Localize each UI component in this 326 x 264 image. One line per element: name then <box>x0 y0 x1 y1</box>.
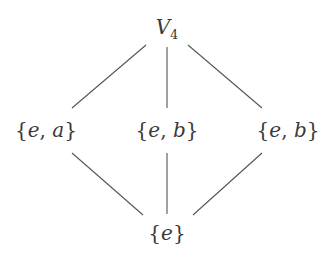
node-trivial-subgroup: {e} <box>148 221 185 245</box>
identity-element: e <box>148 118 160 142</box>
node-v4: V4 <box>156 15 179 42</box>
edge-left-bottom <box>72 153 143 215</box>
brace-open: { <box>15 118 28 142</box>
brace-open: { <box>257 118 270 142</box>
node-subgroup-ea: {e, a} <box>15 118 77 142</box>
separator: , <box>281 118 294 142</box>
edge-right-bottom <box>193 153 262 215</box>
edge-top-left <box>72 45 146 108</box>
node-v4-subscript: 4 <box>170 27 178 42</box>
node-v4-label: V <box>156 15 170 39</box>
brace-close: } <box>186 118 199 142</box>
separator: , <box>40 118 53 142</box>
brace-close: } <box>307 118 320 142</box>
brace-open: { <box>136 118 149 142</box>
identity-element: e <box>269 118 281 142</box>
brace-close: } <box>173 221 186 245</box>
edge-top-right <box>188 45 262 108</box>
node-subgroup-eb-right: {e, b} <box>257 118 320 142</box>
element-a: a <box>52 118 64 142</box>
node-subgroup-eb-middle: {e, b} <box>136 118 199 142</box>
identity-element: e <box>28 118 40 142</box>
element-b: b <box>294 118 307 142</box>
brace-open: { <box>148 221 161 245</box>
identity-element: e <box>161 221 173 245</box>
brace-close: } <box>64 118 77 142</box>
separator: , <box>160 118 173 142</box>
element-b: b <box>173 118 186 142</box>
